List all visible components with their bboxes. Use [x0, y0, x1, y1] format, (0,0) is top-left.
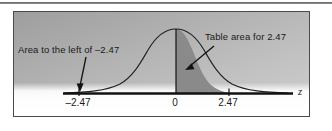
top-divider-rule [0, 2, 332, 4]
tick-label-negative-2-47: –2.47 [55, 97, 101, 108]
tick-label-positive-2-47: 2.47 [208, 97, 248, 108]
left-area-annotation-label: Area to the left of –2.47 [18, 44, 119, 55]
tick-label-zero: 0 [163, 97, 187, 108]
right-area-annotation-label: Table area for 2.47 [205, 31, 286, 42]
z-axis-label: z [298, 86, 302, 97]
left-callout-arrow [77, 57, 86, 92]
